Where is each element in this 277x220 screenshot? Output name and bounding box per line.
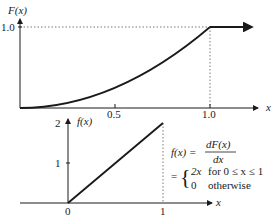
cdf-curve [20, 27, 210, 108]
pdf-chart: f(x) 2 1 0 1 x f(x) = dF(x) dx = { 2x fo… [20, 115, 263, 217]
eq-brace: { [180, 164, 191, 189]
pdf-y-label: f(x) [77, 115, 93, 128]
pdf-x-label: x [215, 196, 221, 208]
cdf-ytick-label-1: 1.0 [1, 21, 15, 33]
pdf-xtick-label-zero: 0 [65, 205, 71, 217]
cdf-xtick-label-half: 0.5 [107, 108, 121, 120]
eq-case2-condition: otherwise [208, 179, 251, 191]
cdf-y-label: F(x) [7, 4, 27, 17]
pdf-xtick-label-one: 1 [160, 205, 166, 217]
eq-lhs: f(x) = [171, 146, 196, 159]
eq-case1-condition: for 0 ≤ x ≤ 1 [208, 165, 263, 177]
cdf-x-label: x [265, 101, 271, 113]
eq-case1-value: 2x [191, 165, 202, 177]
cdf-pdf-figure: F(x) 1.0 0.5 1.0 x f(x) 2 1 0 1 x f(x) =… [0, 0, 277, 220]
cdf-xtick-label-one: 1.0 [202, 108, 216, 120]
pdf-ytick-label-1: 1 [55, 157, 61, 169]
eq-denominator: dx [213, 153, 224, 165]
pdf-ytick-label-2: 2 [55, 117, 61, 129]
cdf-chart: F(x) 1.0 0.5 1.0 x [1, 4, 271, 120]
eq-equals: = [171, 170, 177, 182]
eq-numerator: dF(x) [206, 138, 231, 151]
eq-case2-value: 0 [191, 179, 197, 191]
pdf-line [68, 123, 163, 203]
